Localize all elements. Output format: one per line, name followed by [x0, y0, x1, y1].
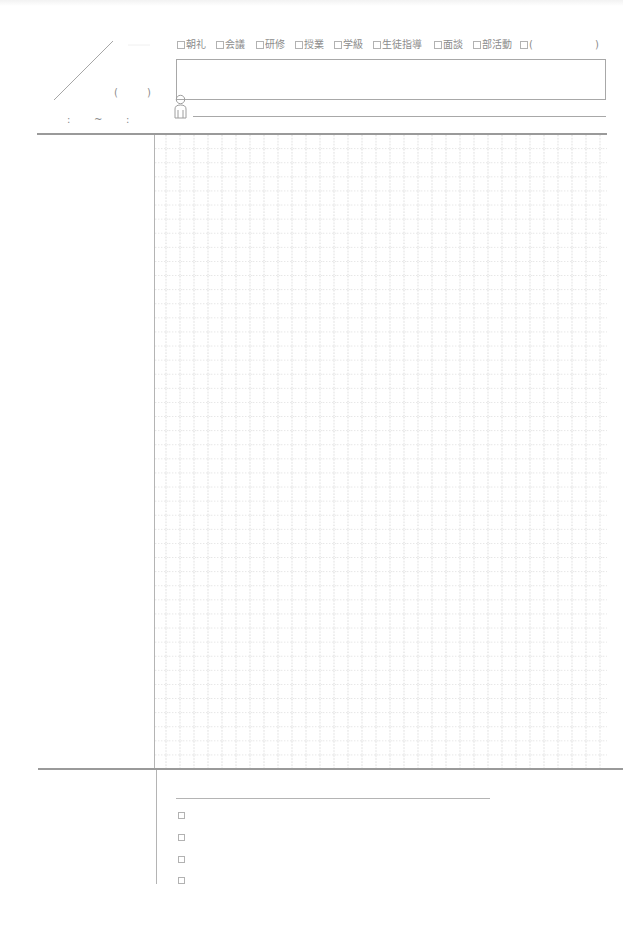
action-item-input[interactable] — [191, 872, 495, 888]
checkbox-icon[interactable] — [520, 41, 528, 49]
footer-column-divider — [156, 770, 157, 884]
checkbox-icon[interactable] — [178, 812, 185, 819]
category-label: 会議 — [225, 39, 245, 51]
category-mendan[interactable]: 面談 — [434, 39, 463, 51]
time-range-separator: ~ — [94, 114, 102, 126]
footer-divider — [38, 768, 623, 770]
category-other-field[interactable] — [530, 37, 592, 51]
attendees-input[interactable] — [193, 110, 606, 122]
weekday-open-paren: ( — [114, 87, 118, 99]
category-kenshu[interactable]: 研修 — [256, 39, 285, 51]
start-minute-field[interactable] — [73, 112, 93, 126]
start-time-separator: : — [67, 114, 70, 126]
checkbox-icon[interactable] — [216, 41, 224, 49]
title-input[interactable] — [177, 60, 605, 99]
category-label: 授業 — [304, 39, 324, 51]
checkbox-icon[interactable] — [295, 41, 303, 49]
category-chourei[interactable]: 朝礼 — [177, 39, 206, 51]
checkbox-icon[interactable] — [373, 41, 381, 49]
action-items-header-line — [176, 798, 490, 799]
category-seito-shidou[interactable]: 生徒指導 — [373, 39, 422, 51]
checkbox-icon[interactable] — [177, 41, 185, 49]
category-label: 研修 — [265, 39, 285, 51]
end-minute-field[interactable] — [132, 112, 150, 126]
grid-notes-area[interactable] — [155, 135, 607, 769]
category-label: 生徒指導 — [382, 39, 422, 51]
category-label: 朝礼 — [186, 39, 206, 51]
checkbox-icon[interactable] — [334, 41, 342, 49]
left-cue-column[interactable] — [38, 137, 152, 767]
start-hour-field[interactable] — [42, 112, 66, 126]
checkbox-icon[interactable] — [434, 41, 442, 49]
action-item[interactable] — [178, 807, 495, 823]
action-item-input[interactable] — [191, 829, 495, 845]
end-time-separator: : — [126, 114, 129, 126]
category-other-close-paren: ) — [595, 39, 599, 51]
end-hour-field[interactable] — [104, 112, 126, 126]
weekday-field[interactable] — [121, 86, 147, 100]
checkbox-icon[interactable] — [178, 877, 185, 884]
category-bukatsudou[interactable]: 部活動 — [473, 39, 512, 51]
action-item[interactable] — [178, 872, 495, 888]
category-jugyou[interactable]: 授業 — [295, 39, 324, 51]
checkbox-icon[interactable] — [473, 41, 481, 49]
checkbox-icon[interactable] — [256, 41, 264, 49]
category-label: 面談 — [443, 39, 463, 51]
checkbox-icon[interactable] — [178, 856, 185, 863]
category-kaigi[interactable]: 会議 — [216, 39, 245, 51]
attendees-field[interactable] — [193, 104, 606, 117]
person-icon — [173, 94, 189, 120]
checkbox-icon[interactable] — [178, 834, 185, 841]
action-item-input[interactable] — [191, 807, 495, 823]
year-day-field[interactable] — [60, 40, 100, 54]
weekday-close-paren: ) — [147, 87, 151, 99]
action-item[interactable] — [178, 829, 495, 845]
action-item[interactable] — [178, 851, 495, 867]
month-field[interactable] — [95, 72, 135, 86]
category-label: 部活動 — [482, 39, 512, 51]
title-box[interactable] — [176, 59, 606, 100]
action-item-input[interactable] — [191, 851, 495, 867]
category-gakkyu[interactable]: 学級 — [334, 39, 363, 51]
category-label: 学級 — [343, 39, 363, 51]
